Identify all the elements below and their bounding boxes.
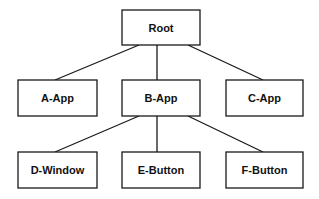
node-c-app-label: C-App: [248, 92, 281, 104]
edge-root-a: [55, 45, 139, 80]
node-d-window-label: D-Window: [31, 164, 85, 176]
edge-root-c: [188, 45, 263, 80]
node-d-window: D-Window: [18, 152, 97, 188]
node-a-app-label: A-App: [41, 92, 74, 104]
node-c-app: C-App: [226, 80, 303, 116]
edge-b-d: [55, 116, 139, 152]
node-root-label: Root: [148, 22, 173, 34]
node-f-button: F-Button: [226, 152, 303, 188]
node-b-app: B-App: [122, 80, 200, 116]
edge-b-f: [188, 116, 263, 152]
node-e-button-label: E-Button: [138, 164, 185, 176]
node-f-button-label: F-Button: [242, 164, 288, 176]
node-e-button: E-Button: [122, 152, 200, 188]
tree-diagram: Root A-App B-App C-App D-Window E-Button…: [0, 0, 319, 199]
node-root: Root: [122, 10, 200, 45]
node-b-app-label: B-App: [145, 92, 178, 104]
node-a-app: A-App: [18, 80, 97, 116]
